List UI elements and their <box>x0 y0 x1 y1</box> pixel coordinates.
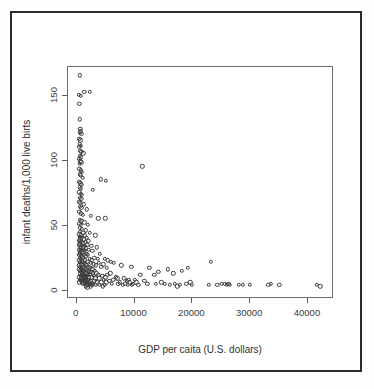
x-tick-mark <box>76 298 77 303</box>
scatter-plot-figure: 010000200003000040000 050100150 GDP per … <box>0 0 374 389</box>
y-tick-mark <box>62 95 67 96</box>
y-tick-label: 150 <box>48 87 59 103</box>
x-tick-mark <box>307 298 308 303</box>
plot-panel-border <box>67 66 333 298</box>
y-axis-label: infant deaths/1,000 live birts <box>21 120 32 245</box>
figure-page: 010000200003000040000 050100150 GDP per … <box>0 0 374 389</box>
y-tick-mark <box>62 225 67 226</box>
y-tick-label: 100 <box>48 152 59 168</box>
x-tick-label: 40000 <box>294 307 320 318</box>
x-tick-mark <box>134 298 135 303</box>
y-tick-mark <box>62 290 67 291</box>
x-tick-label: 10000 <box>120 307 146 318</box>
y-tick-label: 0 <box>48 288 59 293</box>
y-tick-label: 50 <box>48 220 59 231</box>
x-tick-mark <box>191 298 192 303</box>
x-tick-mark <box>249 298 250 303</box>
x-tick-label: 30000 <box>236 307 262 318</box>
x-axis-label: GDP per caita (U.S. dollars) <box>138 344 262 355</box>
x-tick-label: 0 <box>73 307 78 318</box>
y-tick-mark <box>62 160 67 161</box>
x-tick-label: 20000 <box>178 307 204 318</box>
